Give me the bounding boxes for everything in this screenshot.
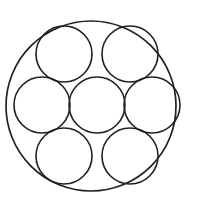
figure-canvas [0,0,202,201]
diagram-background [0,0,202,201]
circle-packing-diagram [0,0,202,201]
